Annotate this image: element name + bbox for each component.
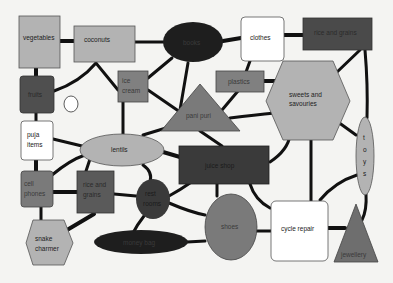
node-label: rooms — [143, 200, 162, 207]
node-label: clothes — [250, 34, 271, 41]
node-label: coconuts — [84, 36, 111, 43]
node-vegetables[interactable]: vegetables — [19, 16, 60, 68]
node-puja-items[interactable]: puja items — [21, 121, 53, 160]
edge-rice-sweets — [336, 50, 360, 73]
node-label: juice shop — [204, 162, 235, 170]
edge-panipuri-sweets — [230, 113, 275, 118]
node-toys[interactable]: t o y s — [356, 117, 374, 195]
node-books[interactable]: books — [163, 22, 223, 62]
node-sweets-and-savouries[interactable]: sweets and savouries — [266, 61, 350, 140]
edge-panipuri-juice — [200, 131, 222, 146]
node-label: vegetables — [23, 34, 55, 42]
node-rice-and-grains-top[interactable]: rice and grains — [303, 18, 372, 50]
empty-circle-node — [64, 96, 78, 112]
edge-books-clothes — [223, 38, 241, 41]
node-label: items — [27, 141, 43, 148]
node-label: t — [363, 134, 365, 141]
node-label: puja — [27, 131, 40, 139]
node-label: o — [363, 146, 367, 153]
node-label: cycle repair — [281, 225, 315, 233]
edge-lentils-rice — [86, 159, 90, 171]
node-rice-and-grains-mid[interactable]: rice and grains — [77, 171, 114, 213]
node-label: sweets and — [289, 91, 322, 98]
node-cycle-repair[interactable]: cycle repair — [271, 201, 328, 261]
edge-sweets-toys — [338, 122, 356, 135]
node-label: rice and grains — [314, 29, 357, 37]
node-label: lentils — [111, 146, 128, 153]
node-jewellery[interactable]: jewellery — [334, 204, 378, 262]
edge-toys-jewellery — [362, 194, 366, 220]
edge-lentils-juice — [163, 152, 180, 157]
edge-toys-cycle — [320, 175, 357, 200]
edge-rice-snake — [67, 214, 94, 230]
edge-moneybag-shoes — [187, 241, 205, 242]
edge-rice-toys — [365, 50, 367, 118]
node-label: pani puri — [186, 112, 211, 120]
node-cell-phones[interactable]: cell phones — [21, 171, 53, 207]
node-label: phones — [24, 190, 46, 198]
node-snake-charmer[interactable]: snake charmer — [26, 220, 73, 265]
node-label: savouries — [289, 100, 318, 107]
edge-rice-restrooms — [114, 194, 136, 196]
edge-restrooms-shoes — [169, 203, 205, 215]
market-map-diagram: vegetables coconuts books clothes rice a… — [0, 0, 393, 283]
node-lentils[interactable]: lentils — [80, 134, 164, 166]
node-shoes[interactable]: shoes — [205, 194, 257, 260]
node-label: cell — [24, 180, 34, 187]
node-label: shoes — [221, 223, 239, 230]
edge-fruits-icecream — [54, 63, 118, 91]
node-rest-rooms[interactable]: rest rooms — [136, 179, 170, 219]
node-coconuts[interactable]: coconuts — [74, 26, 135, 62]
edge-icecream-panipuri — [148, 90, 180, 112]
node-label: grains — [83, 191, 101, 199]
node-plastics[interactable]: plastics — [216, 71, 264, 92]
node-clothes[interactable]: clothes — [241, 17, 284, 61]
node-juice-shop[interactable]: juice shop — [179, 146, 269, 184]
edge-juice-cycle — [250, 184, 270, 208]
node-label: rest — [145, 190, 156, 197]
edge-plastics-panipuri — [222, 91, 238, 110]
node-label: cream — [122, 87, 140, 94]
edge-restrooms-juice — [169, 183, 190, 196]
edge-clothes-plastics — [246, 61, 250, 72]
node-ice-cream[interactable]: ice cream — [118, 71, 148, 102]
node-label: books — [183, 39, 201, 46]
node-label: jewellery — [340, 251, 367, 259]
edge-puja-lentils — [53, 139, 82, 146]
node-label: charmer — [35, 245, 60, 252]
edge-icecream-books — [148, 58, 172, 78]
node-label: fruits — [28, 91, 43, 98]
node-label: snake — [35, 235, 53, 242]
node-money-bag[interactable]: money bag — [94, 230, 188, 254]
node-label: money bag — [123, 239, 156, 247]
node-label: rice and — [83, 181, 107, 188]
node-label: ice — [122, 77, 131, 84]
node-label: plastics — [228, 78, 250, 86]
node-fruits[interactable]: fruits — [20, 76, 54, 113]
